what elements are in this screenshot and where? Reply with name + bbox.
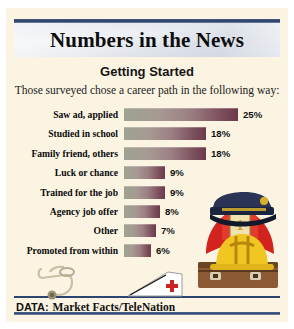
bar-row: Studied in school18%: [6, 124, 288, 143]
bar-value-label: 9%: [170, 183, 184, 202]
bar-category-label: Saw ad, applied: [6, 105, 118, 124]
bar-row: Family friend, others18%: [6, 144, 288, 163]
bar-category-label: Agency job offer: [6, 202, 118, 221]
bar: [124, 186, 165, 199]
bar-row: Other7%: [6, 221, 288, 240]
bar: [124, 166, 165, 179]
nurse-cap-icon: [124, 266, 186, 302]
newspaper-clipping: Numbers in the News Getting Started Thos…: [0, 0, 294, 329]
bar: [124, 205, 160, 218]
bar: [124, 108, 238, 121]
bar-row: Saw ad, applied25%: [6, 105, 288, 124]
bar-row: Luck or chance9%: [6, 163, 288, 182]
page-title: Numbers in the News: [6, 23, 288, 57]
bar-category-label: Luck or chance: [6, 163, 118, 182]
bar: [124, 224, 156, 237]
stethoscope-icon: [34, 263, 106, 303]
chart-title: Getting Started: [6, 64, 288, 79]
chart-subtitle: Those surveyed chose a career path in th…: [6, 84, 288, 96]
bar-chart: Saw ad, applied25%Studied in school18%Fa…: [6, 105, 288, 265]
bar-row: Trained for the job9%: [6, 183, 288, 202]
bar-category-label: Other: [6, 221, 118, 240]
bar-value-label: 18%: [211, 124, 230, 143]
footer-rule-bottom: [14, 312, 280, 315]
bar: [124, 244, 151, 257]
bar-category-label: Promoted from within: [6, 241, 118, 260]
bar-value-label: 7%: [161, 221, 175, 240]
bar-value-label: 18%: [211, 144, 230, 163]
bar-value-label: 25%: [243, 105, 262, 124]
bar: [124, 147, 206, 160]
bar-category-label: Family friend, others: [6, 144, 118, 163]
article-sheet: Numbers in the News Getting Started Thos…: [6, 8, 288, 322]
bar-value-label: 6%: [156, 241, 170, 260]
bar-row: Promoted from within6%: [6, 241, 288, 260]
bar-row: Agency job offer8%: [6, 202, 288, 221]
bar-category-label: Trained for the job: [6, 183, 118, 202]
bar-value-label: 8%: [165, 202, 179, 221]
bar: [124, 127, 206, 140]
bar-category-label: Studied in school: [6, 124, 118, 143]
bar-value-label: 9%: [170, 163, 184, 182]
